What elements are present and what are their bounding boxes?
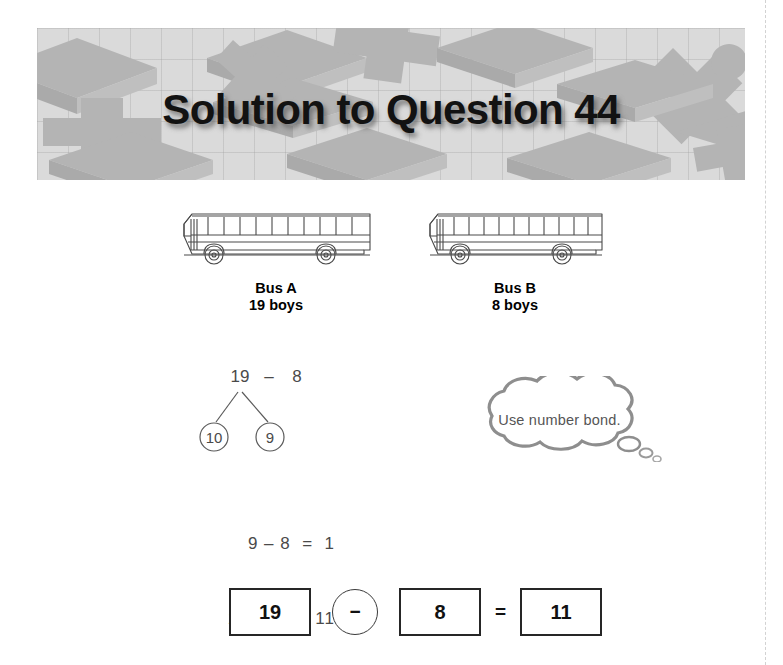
bond-branch-right-line [242, 392, 268, 422]
answer-equals-sign: = [495, 601, 506, 623]
school-bus-icon [178, 206, 374, 268]
hint-thought-bubble: Use number bond. [452, 376, 670, 466]
answer-operand-a-box: 19 [229, 588, 311, 636]
working-line-1: 9 – 8 = 1 [200, 531, 335, 556]
thought-trail-bubble-2 [640, 449, 653, 458]
bus-a-block: Bus A 19 boys [178, 206, 374, 314]
bus-a-name: Bus A [178, 280, 374, 297]
hint-text: Use number bond. [452, 412, 667, 428]
number-bond-diagram: 19 – 8 10 9 [196, 365, 366, 460]
answer-operator-circle: − [332, 589, 378, 635]
header-banner: Solution to Question 44 [37, 28, 745, 180]
bond-expression-left: 19 [231, 367, 250, 386]
thought-trail-bubble-1 [618, 437, 640, 451]
bus-a-count: 19 boys [178, 297, 374, 314]
thought-trail-bubble-3 [653, 456, 661, 462]
bus-b-count: 8 boys [424, 297, 606, 314]
answer-operand-b-box: 8 [399, 588, 481, 636]
bond-expression-right: 8 [292, 367, 301, 386]
bond-branch-left-line [216, 392, 238, 422]
school-bus-icon [424, 206, 606, 268]
bus-a-caption: Bus A 19 boys [178, 280, 374, 314]
bus-b-caption: Bus B 8 boys [424, 280, 606, 314]
page-title: Solution to Question 44 [37, 86, 745, 134]
answer-equation-row: 19 − 8 = 11 [229, 588, 602, 636]
bus-b-block: Bus B 8 boys [424, 206, 606, 314]
answer-result-box: 11 [520, 588, 602, 636]
bond-value-right: 9 [266, 429, 274, 446]
bus-b-name: Bus B [424, 280, 606, 297]
bond-value-left: 10 [206, 429, 223, 446]
bond-expression-operator: – [264, 367, 274, 386]
page-trim-dashed-line [765, 0, 766, 665]
